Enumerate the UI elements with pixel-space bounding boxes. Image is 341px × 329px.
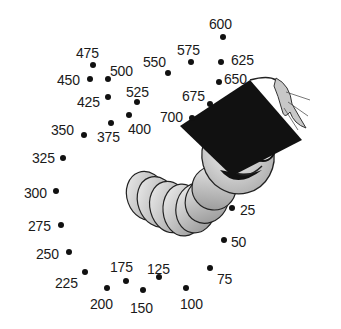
dot-label-25: 25 — [240, 203, 255, 217]
dot-label-450: 450 — [57, 73, 80, 87]
dot-label-300: 300 — [24, 186, 47, 200]
dot-75 — [207, 265, 213, 271]
dot-label-250: 250 — [36, 247, 59, 261]
dot-label-50: 50 — [231, 235, 246, 249]
dot-700 — [189, 115, 195, 121]
dot-100 — [183, 285, 189, 291]
dot-label-100: 100 — [180, 297, 203, 311]
dot-425 — [105, 94, 111, 100]
dot-150 — [140, 287, 146, 293]
dot-label-425: 425 — [77, 95, 100, 109]
dot-600 — [220, 34, 226, 40]
dot-label-625: 625 — [231, 53, 254, 67]
dot-350 — [81, 132, 87, 138]
dot-175 — [123, 278, 129, 284]
dot-label-75: 75 — [217, 272, 232, 286]
dot-325 — [60, 155, 66, 161]
dot-label-225: 225 — [55, 276, 78, 290]
dot-675 — [207, 101, 213, 107]
dot-label-475: 475 — [76, 46, 99, 60]
dot-225 — [82, 269, 88, 275]
dot-475 — [90, 62, 96, 68]
dot-label-650: 650 — [224, 72, 247, 86]
dot-250 — [66, 249, 72, 255]
dot-450 — [87, 76, 93, 82]
dot-label-550: 550 — [143, 55, 166, 69]
dot-300 — [53, 188, 59, 194]
dot-label-175: 175 — [110, 260, 133, 274]
dot-label-200: 200 — [90, 297, 113, 311]
dot-label-675: 675 — [182, 89, 205, 103]
dot-label-575: 575 — [177, 43, 200, 57]
dot-575 — [188, 59, 194, 65]
dot-25 — [229, 205, 235, 211]
dot-label-400: 400 — [128, 122, 151, 136]
connect-the-dots-worksheet: 2550751001251501752002252502753003253503… — [0, 0, 341, 329]
dot-550 — [165, 70, 171, 76]
dot-375 — [108, 120, 114, 126]
dot-label-500: 500 — [110, 64, 133, 78]
dot-label-375: 375 — [97, 130, 120, 144]
dot-label-325: 325 — [32, 151, 55, 165]
dot-50 — [221, 237, 227, 243]
dot-625 — [218, 59, 224, 65]
dot-label-125: 125 — [147, 262, 170, 276]
dot-label-275: 275 — [28, 219, 51, 233]
dot-label-700: 700 — [160, 110, 183, 124]
dot-200 — [104, 285, 110, 291]
dot-650 — [216, 79, 222, 85]
dot-275 — [58, 222, 64, 228]
dot-label-350: 350 — [51, 123, 74, 137]
dot-label-525: 525 — [126, 85, 149, 99]
dot-label-600: 600 — [209, 17, 232, 31]
dot-400 — [126, 112, 132, 118]
dot-label-150: 150 — [130, 301, 153, 315]
